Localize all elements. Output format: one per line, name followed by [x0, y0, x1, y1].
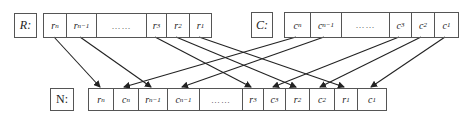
r-label: R:	[20, 18, 31, 33]
r-cell: rn−1	[66, 14, 96, 37]
c-label-box: C:	[251, 12, 273, 38]
c-cell: c1	[434, 13, 458, 37]
c-cell: c3	[389, 13, 411, 37]
r-array: rn rn−1 …… r3 r2 r1	[43, 13, 212, 38]
c-cell: c2	[411, 13, 434, 37]
c-cell-ellipsis: ……	[341, 13, 389, 37]
r-cell: rn	[44, 14, 66, 37]
n-cell: r3	[242, 89, 263, 110]
arrow-rn-1	[80, 37, 151, 87]
r-cell-ellipsis: ……	[96, 14, 146, 37]
arrow-c1	[371, 37, 445, 87]
n-label-box: N:	[50, 88, 74, 111]
n-cell: cn−1	[167, 89, 199, 110]
n-cell: c2	[309, 89, 334, 110]
n-cell: rn	[89, 89, 113, 110]
n-cell: cn	[113, 89, 138, 110]
n-cell-ellipsis: ……	[199, 89, 242, 110]
n-array: rn cn rn−1 cn−1 …… r3 c3 r2 c2 r1 c1	[88, 88, 387, 111]
c-cell: cn−1	[310, 13, 341, 37]
c-cell: cn	[285, 13, 310, 37]
r-cell: r1	[189, 14, 211, 37]
n-cell: rn−1	[138, 89, 167, 110]
n-label: N:	[56, 92, 68, 107]
r-cell: r2	[166, 14, 189, 37]
r-label-box: R:	[14, 13, 37, 38]
n-cell: c1	[357, 89, 386, 110]
c-label: C:	[256, 18, 268, 33]
arrow-rn	[54, 37, 100, 87]
n-cell: r2	[285, 89, 309, 110]
c-array: cn cn−1 …… c3 c2 c1	[284, 12, 459, 38]
n-cell: r1	[334, 89, 357, 110]
n-cell: c3	[263, 89, 285, 110]
r-cell: r3	[146, 14, 166, 37]
